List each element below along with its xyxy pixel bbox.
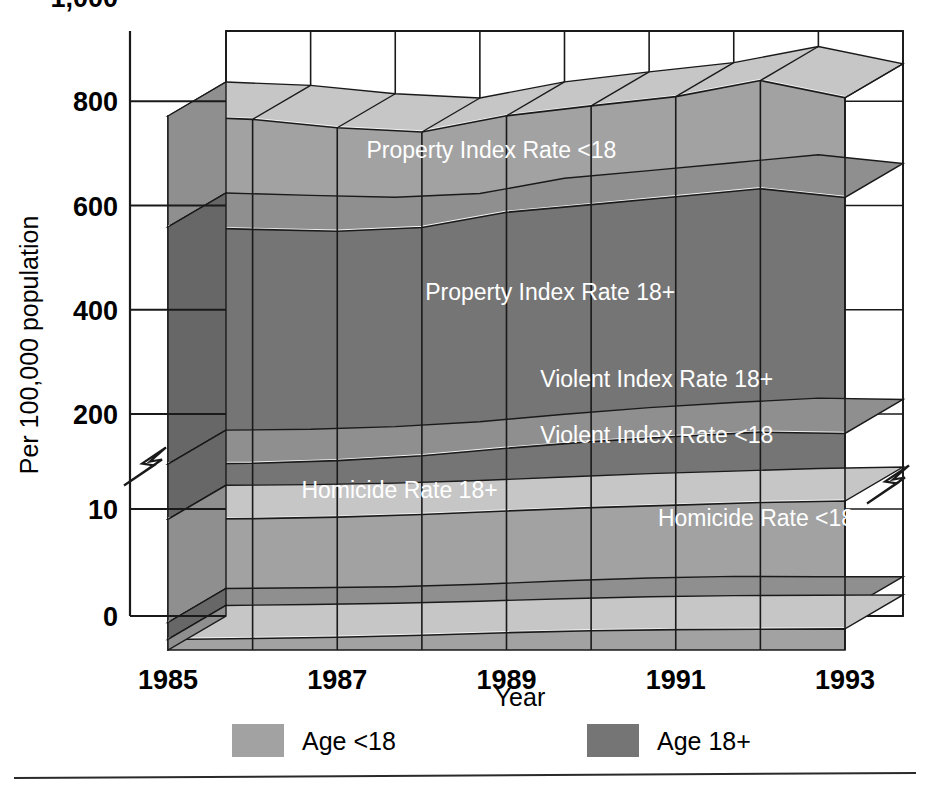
band-label: Violent Index Rate <18: [540, 422, 773, 448]
x-tick-label: 1993: [815, 665, 875, 695]
x-tick-label: 1991: [646, 665, 706, 695]
band-label: Violent Index Rate 18+: [540, 366, 773, 392]
chart-figure: 1,000800600400200100 1985198719891991199…: [0, 0, 930, 797]
y-tick-label: 600: [73, 192, 118, 222]
legend-label: Age 18+: [657, 727, 751, 755]
y-tick-label: 200: [73, 400, 118, 430]
band-label: Property Index Rate 18+: [425, 279, 675, 305]
y-axis-title: Per 100,000 population: [15, 216, 43, 475]
band-label: Property Index Rate <18: [366, 137, 616, 163]
stacked-area-chart: 1,000800600400200100 1985198719891991199…: [0, 0, 930, 797]
x-tick-label: 1985: [138, 665, 198, 695]
band-label: Homicide Rate <18: [658, 505, 854, 531]
y-tick-label: 800: [73, 87, 118, 117]
x-axis-title: Year: [495, 683, 546, 711]
y-tick-label: 1,000: [50, 0, 118, 13]
x-tick-label: 1987: [307, 665, 367, 695]
legend-item: Age <18: [232, 724, 396, 757]
y-tick-label: 10: [88, 495, 118, 525]
legend-item: Age 18+: [587, 724, 751, 757]
legend-label: Age <18: [302, 727, 396, 755]
y-tick-label: 0: [103, 602, 118, 632]
band-label: Homicide Rate 18+: [301, 477, 497, 503]
legend-swatch: [232, 724, 284, 757]
legend-swatch: [587, 724, 639, 757]
y-tick-label: 400: [73, 296, 118, 326]
